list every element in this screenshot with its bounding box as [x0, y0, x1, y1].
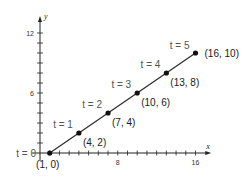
point-label: (10, 6) — [141, 97, 170, 108]
data-line — [50, 53, 196, 153]
t-label: t = 2 — [82, 99, 102, 110]
data-point — [105, 110, 110, 115]
x-tick-label: 16 — [192, 159, 200, 166]
point-label: (4, 2) — [83, 137, 106, 148]
series-line — [47, 50, 198, 155]
t-label: t = 0 — [16, 148, 36, 159]
data-point — [47, 150, 52, 155]
x-tick-label: 8 — [116, 159, 120, 166]
point-label: (16, 10) — [205, 48, 239, 59]
point-label: (7, 4) — [112, 117, 135, 128]
x-axis-arrow-icon — [205, 151, 211, 155]
t-label: t = 1 — [53, 119, 73, 130]
data-point — [135, 90, 140, 95]
point-label: (13, 8) — [170, 77, 199, 88]
y-tick-label: 12 — [26, 30, 34, 37]
y-axis-arrow-icon — [38, 16, 42, 22]
t-label: t = 5 — [170, 40, 190, 51]
y-tick-label: 6 — [30, 90, 34, 97]
point-label: (1, 0) — [36, 159, 59, 170]
data-point — [76, 130, 81, 135]
t-label: t = 4 — [141, 59, 161, 70]
x-axis-label: x — [205, 142, 210, 151]
t-label: t = 3 — [111, 79, 131, 90]
parametric-line-chart: xy 816612 (1, 0)t = 0(4, 2)t = 1(7, 4)t … — [0, 0, 250, 178]
y-axis-label: y — [43, 12, 48, 21]
data-point — [164, 70, 169, 75]
data-point — [193, 50, 198, 55]
